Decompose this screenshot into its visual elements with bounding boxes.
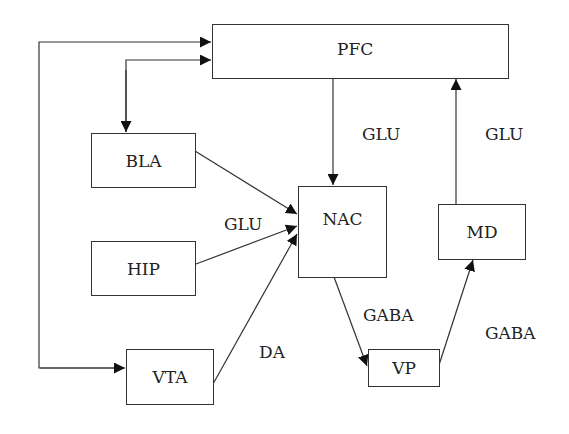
node-vta-label: VTA: [153, 367, 188, 387]
edge-label-pfc-nac: GLU: [362, 124, 400, 144]
node-hip-label: HIP: [127, 259, 160, 279]
node-nac-label: NAC: [322, 209, 362, 229]
edge-bla-nac: [195, 151, 297, 214]
edge-label-nac-vp: GABA: [363, 305, 414, 325]
node-bla: BLA: [91, 133, 196, 188]
node-vp-label: VP: [392, 358, 416, 378]
edge-bla-pfc: [126, 60, 211, 132]
edge-label-vta-nac: DA: [259, 342, 285, 362]
node-md: MD: [438, 204, 526, 260]
edge-vp-md: [439, 260, 473, 365]
node-nac: NAC: [298, 186, 387, 278]
node-md-label: MD: [466, 222, 497, 242]
edge-label-vp-md: GABA: [485, 323, 536, 343]
node-pfc-label: PFC: [337, 39, 373, 59]
edge-label-to-nac: GLU: [224, 214, 262, 234]
circuit-diagram: PFC BLA HIP VTA NAC MD VP GLU GLU GLU DA…: [0, 0, 569, 434]
node-vta: VTA: [126, 349, 214, 405]
edge-label-md-pfc: GLU: [485, 124, 523, 144]
node-pfc: PFC: [212, 24, 509, 79]
edge-vta-pfc: [39, 42, 211, 368]
node-hip: HIP: [91, 241, 196, 296]
node-bla-label: BLA: [125, 151, 161, 171]
node-vp: VP: [368, 349, 440, 387]
